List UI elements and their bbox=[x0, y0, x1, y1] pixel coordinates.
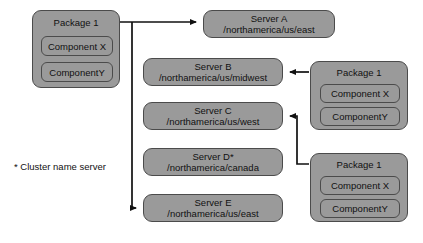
package-distribution-diagram: Package 1 Component X ComponentY Server … bbox=[0, 0, 423, 243]
server-box-c[interactable]: Server C /northamerica/us/west bbox=[143, 102, 283, 130]
package-box-right-bottom[interactable]: Package 1 Component X ComponentY bbox=[310, 153, 408, 222]
server-name: Server D* bbox=[192, 151, 233, 162]
footnote-cluster-name-server: * Cluster name server bbox=[14, 161, 106, 172]
server-name: Server B bbox=[195, 61, 232, 72]
package-box-right-top[interactable]: Package 1 Component X ComponentY bbox=[310, 61, 408, 130]
server-path: /northamerica/us/east bbox=[167, 208, 258, 219]
server-path: /northamerica/canada bbox=[167, 162, 259, 173]
component-box-y[interactable]: ComponentY bbox=[320, 199, 400, 218]
connector-left-package-to-server-e bbox=[132, 22, 136, 208]
package-box-left[interactable]: Package 1 Component X ComponentY bbox=[32, 10, 120, 88]
server-path: /northamerica/us/west bbox=[167, 116, 260, 127]
component-box-y[interactable]: ComponentY bbox=[320, 107, 400, 126]
server-path: /northamerica/us/midwest bbox=[159, 72, 267, 83]
server-name: Server C bbox=[194, 105, 231, 116]
server-box-b[interactable]: Server B /northamerica/us/midwest bbox=[143, 58, 283, 86]
server-box-e[interactable]: Server E /northamerica/us/east bbox=[143, 194, 283, 222]
package-title: Package 1 bbox=[311, 67, 407, 78]
package-title: Package 1 bbox=[311, 159, 407, 170]
component-box-y[interactable]: ComponentY bbox=[41, 62, 113, 82]
server-name: Server A bbox=[251, 13, 287, 24]
server-box-d[interactable]: Server D* /northamerica/canada bbox=[143, 148, 283, 176]
component-box-x[interactable]: Component X bbox=[41, 36, 113, 56]
component-box-x[interactable]: Component X bbox=[320, 176, 400, 195]
connector-right-bottom-package-to-server-c bbox=[290, 116, 309, 164]
package-title: Package 1 bbox=[33, 17, 119, 28]
server-name: Server E bbox=[195, 197, 232, 208]
component-box-x[interactable]: Component X bbox=[320, 84, 400, 103]
server-path: /northamerica/us/east bbox=[223, 24, 314, 35]
server-box-a[interactable]: Server A /northamerica/us/east bbox=[203, 10, 335, 38]
